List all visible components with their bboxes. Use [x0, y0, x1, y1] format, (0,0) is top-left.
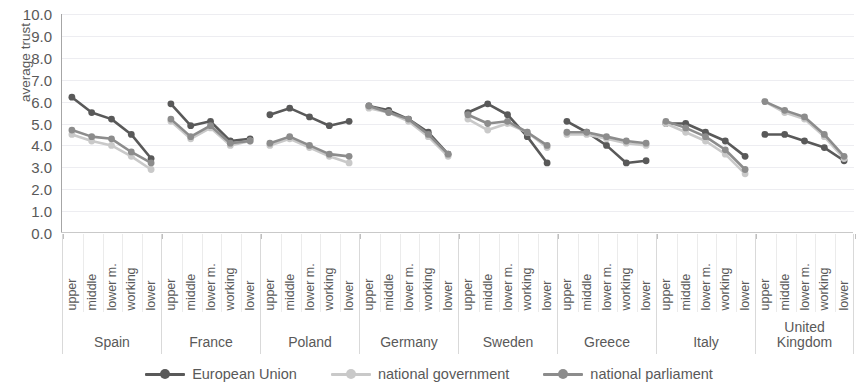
- class-separator: [796, 234, 797, 312]
- x-tick-mark: [63, 234, 64, 239]
- data-point: [88, 109, 95, 116]
- y-tick-label: 1.0: [31, 204, 52, 219]
- data-point: [742, 166, 749, 173]
- class-separator: [202, 234, 203, 312]
- data-point: [544, 142, 551, 149]
- data-point: [128, 131, 135, 138]
- legend-item[interactable]: national government: [331, 366, 509, 382]
- class-tick-label: lower m.: [303, 263, 316, 310]
- x-tick-mark: [558, 234, 559, 239]
- data-point: [148, 160, 155, 167]
- class-tick-label: lower: [739, 280, 752, 310]
- series-line: [369, 108, 448, 156]
- series-line: [369, 106, 448, 154]
- legend-marker-icon: [331, 368, 371, 380]
- data-point: [69, 127, 76, 134]
- class-tick-label: upper: [65, 278, 78, 310]
- data-point: [306, 114, 313, 121]
- class-tick-label: working: [719, 267, 732, 310]
- y-tick-label: 2.0: [31, 182, 52, 197]
- country-tick-label: United Kingdom: [756, 320, 853, 350]
- class-tick-label: lower m.: [798, 263, 811, 310]
- data-point: [227, 140, 234, 147]
- data-point: [504, 118, 511, 125]
- data-point: [445, 151, 452, 158]
- country-tick-label: Sweden: [459, 335, 557, 350]
- class-tick-label: middle: [679, 273, 692, 310]
- class-tick-label: working: [521, 267, 534, 310]
- x-tick-mark: [657, 234, 658, 239]
- y-tick-label: 5.0: [31, 116, 52, 131]
- data-point: [781, 131, 788, 138]
- category-axis-band: uppermiddlelower m.workinglowerSpainuppe…: [62, 234, 854, 354]
- x-tick-mark: [261, 234, 262, 239]
- class-tick-label: lower m.: [105, 263, 118, 310]
- series-line: [765, 102, 844, 159]
- data-point: [643, 140, 650, 147]
- data-point: [405, 116, 412, 123]
- data-point: [603, 133, 610, 140]
- country-panel: uppermiddlelower m.workinglowerFrance: [161, 234, 260, 354]
- class-tick-label: lower: [145, 280, 158, 310]
- class-tick-label: working: [323, 267, 336, 310]
- class-tick-label: lower: [640, 280, 653, 310]
- class-tick-label: lower m.: [501, 263, 514, 310]
- series-line: [72, 97, 151, 158]
- country-tick-label: France: [162, 335, 260, 350]
- x-tick-mark: [855, 234, 856, 239]
- data-point: [267, 111, 274, 118]
- class-tick-label: middle: [184, 273, 197, 310]
- data-point: [504, 111, 511, 118]
- data-point: [702, 133, 709, 140]
- data-point: [722, 138, 729, 145]
- data-point: [425, 131, 432, 138]
- data-point: [465, 111, 472, 118]
- y-tick-label: 9.0: [31, 28, 52, 43]
- data-point: [801, 114, 808, 121]
- class-separator: [697, 234, 698, 312]
- data-point: [148, 166, 155, 173]
- class-tick-label: lower m.: [402, 263, 415, 310]
- class-tick-label: lower m.: [204, 263, 217, 310]
- legend-item[interactable]: national parliament: [543, 366, 713, 382]
- data-point: [643, 157, 650, 164]
- data-point: [564, 118, 571, 125]
- country-tick-label: Greece: [558, 335, 656, 350]
- class-tick-label: working: [422, 267, 435, 310]
- data-point: [346, 160, 353, 167]
- data-point: [742, 153, 749, 160]
- data-point: [128, 149, 135, 156]
- class-tick-label: lower: [838, 280, 851, 310]
- class-tick-label: lower: [541, 280, 554, 310]
- country-panel: uppermiddlelower m.workinglowerSpain: [62, 234, 161, 354]
- data-point: [108, 116, 115, 123]
- data-point: [484, 100, 491, 107]
- class-tick-label: lower: [343, 280, 356, 310]
- country-panel: uppermiddlelower m.workinglowerPoland: [260, 234, 359, 354]
- legend-label: national parliament: [590, 366, 713, 382]
- class-tick-label: upper: [560, 278, 573, 310]
- y-axis-tick-labels: 0.01.02.03.04.05.06.07.08.09.010.0: [0, 0, 58, 240]
- data-point: [207, 122, 214, 129]
- class-tick-label: middle: [580, 273, 593, 310]
- x-tick-mark: [162, 234, 163, 239]
- country-tick-label: Spain: [63, 335, 161, 350]
- data-point: [682, 124, 689, 131]
- data-point: [623, 138, 630, 145]
- data-point: [663, 118, 670, 125]
- country-panel: uppermiddlelower m.workinglowerItaly: [656, 234, 755, 354]
- class-separator: [400, 234, 401, 312]
- legend-label: European Union: [192, 366, 297, 382]
- data-point: [484, 120, 491, 127]
- legend-item[interactable]: European Union: [145, 366, 297, 382]
- class-tick-label: working: [224, 267, 237, 310]
- data-point: [69, 94, 76, 101]
- data-point: [306, 142, 313, 149]
- y-tick-label: 10.0: [23, 7, 52, 22]
- class-separator: [301, 234, 302, 312]
- legend-marker-icon: [145, 368, 185, 380]
- class-tick-label: middle: [778, 273, 791, 310]
- country-panel: uppermiddlelower m.workinglowerSweden: [458, 234, 557, 354]
- y-tick-label: 7.0: [31, 72, 52, 87]
- data-point: [722, 146, 729, 153]
